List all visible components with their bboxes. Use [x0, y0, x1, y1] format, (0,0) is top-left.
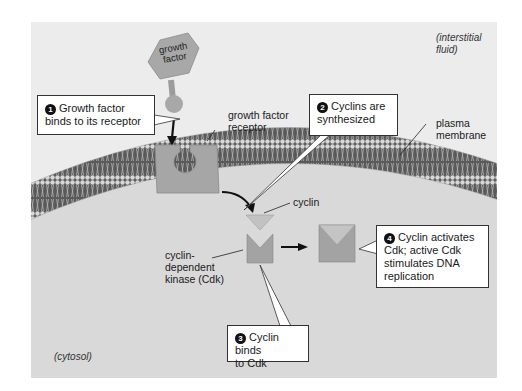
- interstitial-fluid-label: (interstitial fluid): [436, 32, 482, 56]
- step-3-number-icon: 3: [235, 333, 246, 344]
- step-4-callout: 4Cyclin activates Cdk; active Cdk stimul…: [376, 225, 489, 288]
- step-3-callout: 3Cyclin binds to Cdk: [227, 325, 309, 362]
- diagram: growth factor 1Growth factor binds to it…: [0, 0, 522, 391]
- growth-factor-receptor-label: growth factor receptor: [228, 109, 289, 133]
- plasma-membrane-label: plasma membrane: [436, 117, 486, 141]
- step-1-callout: 1Growth factor binds to its receptor: [37, 95, 155, 135]
- active-cyclin-cdk-complex: [319, 225, 355, 262]
- cytosol-label: (cytosol): [54, 351, 92, 363]
- step-1-number-icon: 1: [45, 104, 56, 115]
- step-4-number-icon: 4: [384, 233, 395, 244]
- step-2-number-icon: 2: [317, 102, 328, 113]
- step-2-callout: 2Cyclins are synthesized: [309, 94, 398, 136]
- cyclin-label: cyclin: [293, 196, 319, 208]
- cdk-label: cyclin- dependent kinase (Cdk): [165, 249, 224, 285]
